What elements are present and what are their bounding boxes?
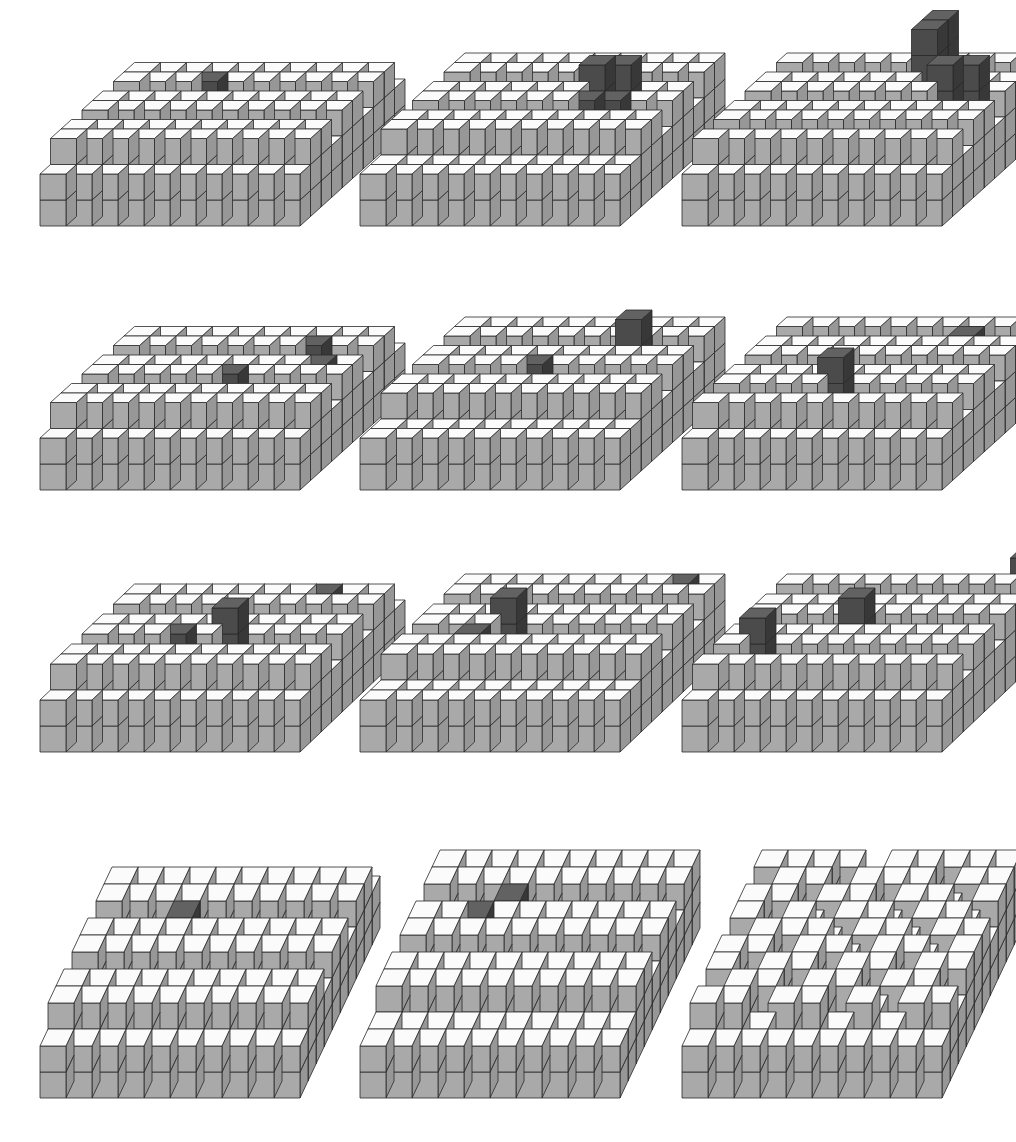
cube-front [912,30,938,56]
panel-r2c3 [678,229,1016,526]
cube-front [40,726,66,752]
cube-front [376,986,402,1012]
cube-front [381,654,407,680]
cube-front [51,403,77,429]
panel-r1c3 [678,0,1016,262]
cube-front [40,174,66,200]
cube-front [360,1072,386,1098]
cube-front [51,664,77,690]
panel-r3c3 [678,486,1016,788]
panel-r4c1 [36,762,396,1134]
cube-front [690,1003,716,1029]
panel-r4c2 [356,762,716,1134]
cube-front [693,139,719,165]
cube-front [360,1046,386,1072]
cube-front [682,700,708,726]
cube-top [1011,548,1016,558]
cube-front [682,200,708,226]
cube-front [616,320,642,346]
cube-front [682,1072,708,1098]
cube-front [360,200,386,226]
cube-front [360,700,386,726]
cube-front [360,726,386,752]
cube-front [40,1072,66,1098]
cube-front [682,174,708,200]
cube-front [381,129,407,155]
cube-front [682,438,708,464]
cube-front [381,393,407,419]
cube-front [48,1003,74,1029]
cube-front [40,1046,66,1072]
cube-front [40,700,66,726]
cube-front [360,174,386,200]
cube-front [40,438,66,464]
cube-front [693,403,719,429]
panel-r4c3 [678,762,1016,1134]
cube-front [51,139,77,165]
cube-front [693,664,719,690]
cube-front [360,438,386,464]
cube-front [40,200,66,226]
cube-front [839,598,865,624]
voxel-figure [0,0,1016,1142]
cube-front [682,726,708,752]
cube-front [682,1046,708,1072]
